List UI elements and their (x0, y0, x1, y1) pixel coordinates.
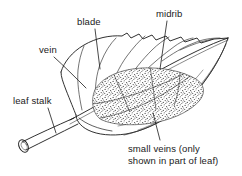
label-blade: blade (77, 16, 101, 27)
label-midrib: midrib (156, 8, 182, 19)
leaf-diagram-figure: blade midrib vein leaf stalk small veins… (0, 0, 242, 176)
label-vein: vein (39, 44, 57, 55)
leader-line-vein (54, 57, 86, 88)
label-small-veins: small veins (only shown in part of leaf) (128, 143, 218, 167)
leader-line-blade (95, 29, 100, 69)
label-small-veins-line2: shown in part of leaf) (128, 155, 218, 167)
leader-line-midrib (160, 21, 167, 69)
label-leaf-stalk: leaf stalk (13, 95, 52, 106)
label-small-veins-line1: small veins (only (128, 143, 218, 155)
small-veins-stipple-region (92, 66, 203, 125)
leaf-stalk-drawing (17, 118, 78, 154)
